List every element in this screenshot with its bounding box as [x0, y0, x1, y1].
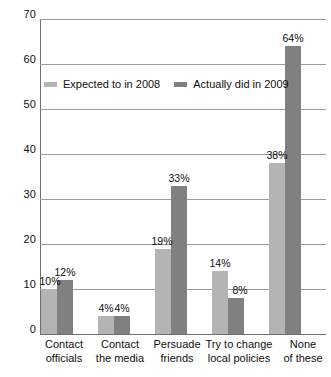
legend-label-expected: Expected to in 2008: [63, 78, 160, 90]
x-axis-label-line-3-1: local policies: [200, 352, 278, 366]
bar-label-actual-1: 4%: [107, 303, 137, 314]
y-tick-label-20: 20: [2, 234, 36, 245]
bar-expected-1[interactable]: [98, 316, 114, 334]
bar-label-expected-4: 38%: [262, 150, 292, 161]
bar-chart: 70 60 50 40 30 20 10 0 10% 12% 4% 4%: [0, 0, 331, 377]
y-tick-label-50: 50: [2, 99, 36, 110]
legend: Expected to in 2008 Actually did in 2009: [44, 78, 289, 90]
bar-label-actual-0: 12%: [50, 267, 80, 278]
legend-entry-actual[interactable]: Actually did in 2009: [174, 78, 288, 90]
bar-actual-3[interactable]: [228, 298, 244, 334]
x-axis-label-none-of-these: None of these: [274, 338, 331, 365]
bar-label-actual-3: 8%: [225, 285, 255, 296]
y-tick-label-30: 30: [2, 189, 36, 200]
bar-group-try-to-change-local-policies: 14% 8%: [212, 19, 244, 334]
legend-entry-expected[interactable]: Expected to in 2008: [44, 78, 160, 90]
x-axis-label-line-3-0: Try to change: [200, 338, 278, 352]
plot-area: 10% 12% 4% 4% 19% 33% 14% 8% 38%: [40, 19, 326, 334]
bar-label-actual-4: 64%: [278, 33, 308, 44]
gridline-baseline-0: [40, 334, 326, 335]
bar-label-actual-2: 33%: [164, 173, 194, 184]
bar-expected-2[interactable]: [155, 249, 171, 335]
y-tick-label-0: 0: [2, 324, 36, 335]
bar-expected-0[interactable]: [41, 289, 57, 334]
bar-group-none-of-these: 38% 64%: [269, 19, 301, 334]
bar-actual-1[interactable]: [114, 316, 130, 334]
legend-swatch-actual-icon: [174, 82, 187, 87]
y-tick-label-70: 70: [2, 9, 36, 20]
legend-swatch-expected-icon: [44, 82, 57, 87]
x-axis-label-try-to-change-local-policies: Try to change local policies: [200, 338, 278, 365]
bar-actual-0[interactable]: [57, 280, 73, 334]
bar-group-contact-the-media: 4% 4%: [98, 19, 130, 334]
bar-actual-2[interactable]: [171, 186, 187, 335]
bar-group-contact-officials: 10% 12%: [41, 19, 73, 334]
bar-label-expected-2: 19%: [147, 236, 177, 247]
y-tick-label-60: 60: [2, 54, 36, 65]
bar-expected-4[interactable]: [269, 163, 285, 334]
bar-group-persuade-friends: 19% 33%: [155, 19, 187, 334]
y-tick-label-10: 10: [2, 279, 36, 290]
bar-label-expected-3: 14%: [205, 258, 235, 269]
bar-expected-3[interactable]: [212, 271, 228, 334]
x-axis-label-line-4-1: of these: [274, 352, 331, 366]
legend-label-actual: Actually did in 2009: [193, 78, 288, 90]
y-tick-label-40: 40: [2, 144, 36, 155]
x-axis-labels: Contact officials Contact the media Pers…: [40, 338, 331, 377]
y-axis-labels: 70 60 50 40 30 20 10 0: [0, 0, 36, 377]
x-axis-label-line-4-0: None: [274, 338, 331, 352]
